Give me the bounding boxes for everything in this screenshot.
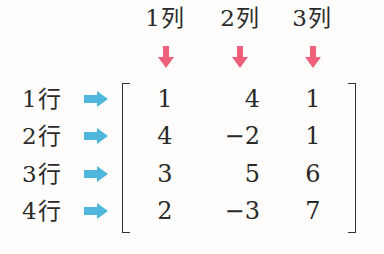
matrix-right-bracket xyxy=(348,83,356,233)
down-arrow-icon xyxy=(232,46,248,68)
matrix-cell-r3-c2: 5 xyxy=(210,159,260,189)
matrix-cell-r3-c3: 6 xyxy=(288,159,338,189)
matrix-cell-r4-c1: 2 xyxy=(140,196,190,226)
matrix-cell-r1-c3: 1 xyxy=(288,84,338,114)
row-label-2: 2行 xyxy=(22,121,74,151)
down-arrow-icon xyxy=(158,46,174,68)
down-arrow-icon xyxy=(305,46,321,68)
row-label-4: 4行 xyxy=(22,196,74,226)
matrix-cell-r2-c3: 1 xyxy=(288,121,338,151)
right-arrow-icon xyxy=(84,128,108,144)
matrix-cell-r2-c1: 4 xyxy=(140,121,190,151)
column-header-3: 3列 xyxy=(282,2,342,34)
matrix-cell-r4-c3: 7 xyxy=(288,196,338,226)
matrix-cell-r1-c1: 1 xyxy=(140,84,190,114)
matrix-cell-r3-c1: 3 xyxy=(140,159,190,189)
right-arrow-icon xyxy=(84,166,108,182)
right-arrow-icon xyxy=(84,91,108,107)
row-label-3: 3行 xyxy=(22,159,74,189)
column-header-2: 2列 xyxy=(210,2,270,34)
right-arrow-icon xyxy=(84,203,108,219)
matrix-cell-r1-c2: 4 xyxy=(210,84,260,114)
row-label-1: 1行 xyxy=(22,84,74,114)
matrix-cell-r4-c2: −3 xyxy=(210,196,260,226)
matrix-cell-r2-c2: −2 xyxy=(210,121,260,151)
matrix-left-bracket xyxy=(122,83,130,233)
column-header-1: 1列 xyxy=(135,2,195,34)
